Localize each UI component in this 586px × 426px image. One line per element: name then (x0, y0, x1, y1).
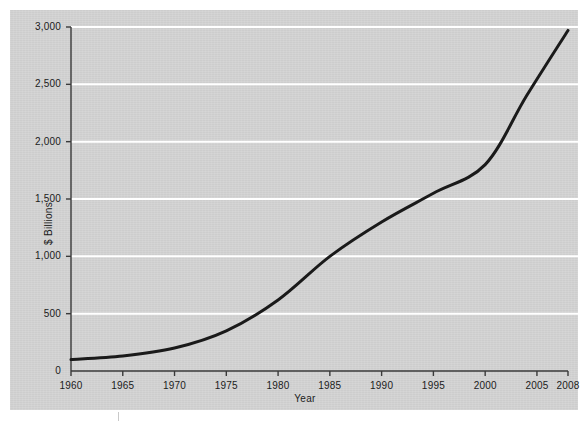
x-tick-label: 1960 (59, 380, 82, 391)
x-tick-label: 1990 (370, 380, 393, 391)
y-tick-label: 0 (0, 365, 61, 376)
y-tick-label: 1,000 (0, 250, 61, 261)
data-series (71, 30, 568, 359)
series-line (71, 30, 568, 359)
y-tick-label: 2,500 (0, 78, 61, 89)
x-tick-label: 1995 (422, 380, 445, 391)
x-axis-title: Year (294, 393, 315, 404)
x-tick-marks (71, 371, 568, 376)
plot-canvas (0, 0, 586, 426)
x-tick-label: 1970 (163, 380, 186, 391)
y-tick-label: 3,000 (0, 21, 61, 32)
x-tick-label: 2005 (525, 380, 548, 391)
x-tick-label: 1980 (267, 380, 290, 391)
x-tick-label: 2008 (556, 380, 579, 391)
chart-figure: 05001,0001,5002,0002,5003,000 1960196519… (0, 0, 586, 426)
x-tick-label: 2000 (474, 380, 497, 391)
y-tick-label: 2,000 (0, 136, 61, 147)
x-tick-label: 1975 (215, 380, 238, 391)
y-tick-marks (66, 27, 71, 314)
x-tick-label: 1965 (111, 380, 134, 391)
y-tick-label: 500 (0, 308, 61, 319)
y-axis-title: $ Billions (43, 202, 54, 245)
x-tick-label: 1985 (318, 380, 341, 391)
stray-tick-mark (118, 412, 119, 421)
gridlines (71, 27, 578, 314)
